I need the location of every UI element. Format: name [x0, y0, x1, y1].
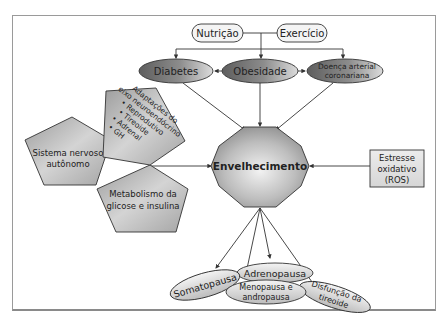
pause-menopausa: Menopausa e andropausa	[226, 280, 306, 304]
diabetes-label: Diabetes	[154, 66, 198, 77]
center-envelhecimento: Envelhecimento	[211, 127, 309, 207]
aging-diagram: Nutrição Exercício Diabetes Obesidade Do…	[0, 0, 447, 335]
nutricao-label: Nutrição	[196, 28, 238, 39]
menopausa-label-2: andropausa	[242, 293, 289, 302]
pentagon-sistema-nervoso: Sistema nervoso autônomo	[25, 117, 111, 185]
disease-obesidade: Obesidade	[222, 59, 298, 83]
metabolismo-label-2: glicose e insulina	[106, 201, 179, 211]
stress-label-2: oxidativo	[378, 164, 417, 174]
menopausa-label-1: Menopausa e	[239, 283, 292, 292]
stress-label-1: Estresse	[379, 153, 415, 163]
obesidade-label: Obesidade	[233, 66, 286, 77]
adrenopausa-label: Adrenopausa	[244, 268, 306, 279]
lifestyle-exercicio: Exercício	[277, 24, 327, 42]
metabolismo-label-1: Metabolismo da	[109, 189, 177, 199]
pause-tireoide: Disfunção da tireoide	[296, 275, 373, 319]
box-estresse-oxidativo: Estresse oxidativo (ROS)	[370, 150, 424, 187]
nervoso-label-1: Sistema nervoso	[33, 148, 104, 158]
pentagon-neuroendocrino: Adaptações do eixo neuroendócrino • Repr…	[94, 77, 188, 167]
disease-doenca-arterial: Doença arterial coronariana	[307, 59, 383, 83]
lifestyle-nutricao: Nutrição	[192, 24, 243, 42]
doenca-label-1: Doença arterial	[318, 62, 376, 71]
pentagon-metabolismo: Metabolismo da glicose e insulina	[97, 165, 188, 232]
disease-diabetes: Diabetes	[139, 59, 213, 83]
exercicio-label: Exercício	[280, 28, 325, 39]
stress-label-3: (ROS)	[385, 175, 410, 185]
pause-somatopausa: Somatopausa	[167, 264, 243, 307]
doenca-label-2: coronariana	[325, 71, 370, 80]
center-label: Envelhecimento	[213, 160, 307, 172]
nervoso-label-2: autônomo	[46, 159, 89, 169]
